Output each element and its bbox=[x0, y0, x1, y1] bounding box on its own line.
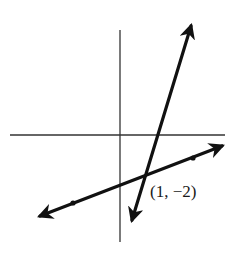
shallow-line-dot-right bbox=[190, 155, 195, 160]
shallow-line-dot-left bbox=[70, 200, 75, 205]
coordinate-plane-figure: (1, −2) bbox=[0, 0, 229, 259]
intersection-point-label: (1, −2) bbox=[150, 182, 196, 201]
